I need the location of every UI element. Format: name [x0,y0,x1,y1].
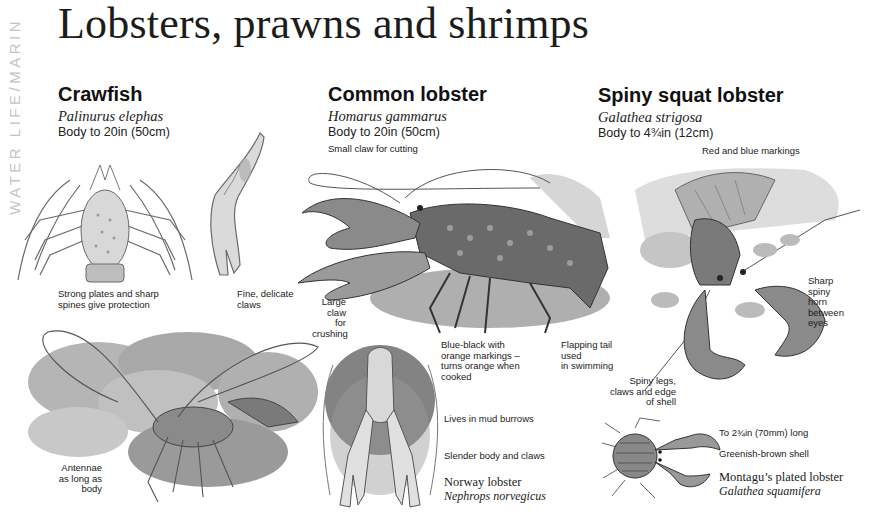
species-size: Body to 20in (50cm) [58,125,170,140]
crawfish-top-view-illustration [10,160,200,285]
species-name: Crawfish [58,83,170,105]
species-latin-name: Galathea strigosa [598,108,784,126]
note-antennae: Antennae as long as body [40,463,102,495]
species-header-spiny-squat-lobster: Spiny squat lobster Galathea strigosa Bo… [598,84,784,141]
species-latin-name: Homarus gammarus [328,107,487,125]
note-fine-claws: Fine, delicate claws [237,289,294,310]
species-size: Body to 20in (50cm) [328,125,487,140]
note-greenish-brown: Greenish-brown shell [719,449,809,460]
norway-lobster-caption: Norway lobster Nephrops norvegicus [444,475,546,503]
caption-latin: Galathea squamifera [719,484,843,498]
montagu-caption: Montagu’s plated lobster Galathea squami… [719,470,843,498]
species-header-crawfish: Crawfish Palinurus elephas Body to 20in … [58,83,170,140]
note-slender-body: Slender body and claws [444,451,545,462]
note-mud-burrows: Lives in mud burrows [444,414,534,425]
note-montagu-length: To 2¾in (70mm) long [719,428,808,439]
note-sharp-horn: Sharp spiny horn between eyes [808,276,844,329]
species-header-common-lobster: Common lobster Homarus gammarus Body to … [328,83,487,140]
caption-latin: Nephrops norvegicus [444,489,546,503]
caption-name: Montagu’s plated lobster [719,470,843,484]
note-flapping-tail: Flapping tail used in swimming [561,340,613,372]
caption-name: Norway lobster [444,475,546,489]
note-red-blue-markings: Red and blue markings [702,146,800,157]
note-small-claw: Small claw for cutting [328,144,418,155]
species-size: Body to 4¾in (12cm) [598,126,784,141]
note-blue-black: Blue-black with orange markings – turns … [441,340,520,382]
species-latin-name: Palinurus elephas [58,107,170,125]
note-spiny-legs: Spiny legs, claws and edge of shell [600,376,676,408]
page-title: Lobsters, prawns and shrimps [58,0,589,48]
species-name: Spiny squat lobster [598,84,784,106]
species-name: Common lobster [328,83,487,105]
crawfish-claw-illustration [200,125,270,285]
note-strong-plates: Strong plates and sharp spines give prot… [58,289,159,310]
norway-lobster-illustration [318,345,443,515]
montagu-plated-lobster-illustration [600,418,725,503]
note-large-claw: Large claw for crushing [312,297,346,339]
